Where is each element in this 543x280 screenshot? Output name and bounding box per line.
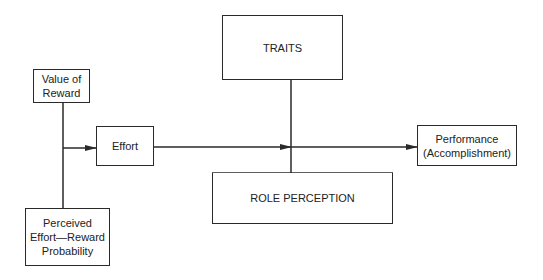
performance-label: Performance (Accomplishment) — [423, 132, 511, 160]
effort-label: Effort — [112, 139, 138, 153]
perceived-probability-label: Perceived Effort—Reward Probability — [30, 216, 105, 258]
role-perception-label: ROLE PERCEPTION — [250, 191, 355, 205]
value-of-reward-label: Value of Reward — [42, 72, 82, 100]
perceived-probability-node: Perceived Effort—Reward Probability — [25, 208, 110, 266]
value-of-reward-node: Value of Reward — [33, 69, 90, 103]
role-perception-node: ROLE PERCEPTION — [212, 173, 393, 224]
performance-node: Performance (Accomplishment) — [417, 125, 517, 166]
effort-node: Effort — [96, 126, 154, 166]
traits-label: TRAITS — [263, 41, 302, 55]
traits-node: TRAITS — [222, 15, 343, 80]
